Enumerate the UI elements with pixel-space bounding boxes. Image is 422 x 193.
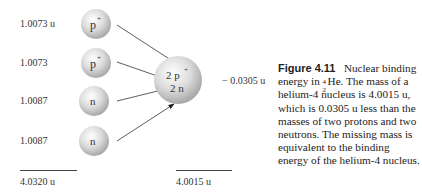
isotope-symbol: He. (328, 75, 344, 87)
sum-rule-right (176, 170, 232, 171)
helium-nucleus-sphere: 2 p + 2 n (154, 56, 202, 104)
figure-caption: Figure 4.11 Nuclear binding energy in 42… (278, 62, 420, 168)
neutron-sphere-2: n (79, 126, 109, 156)
proton-sphere-1: p + (81, 9, 111, 39)
svg-text:n: n (90, 135, 96, 147)
sum-rule-left (20, 170, 77, 171)
mass-defect-label: − 0.0305 u (222, 75, 265, 86)
svg-text:+: + (97, 15, 101, 23)
caption-body: The mass of a helium-4 nucleus is 4.0015… (278, 75, 420, 166)
svg-text:p: p (90, 18, 96, 32)
figure-label: Figure 4.11 (278, 62, 335, 74)
mass-proton-1: 1.0073 u (20, 18, 55, 29)
svg-text:+: + (97, 54, 101, 62)
svg-text:+: + (184, 66, 188, 74)
mass-neutron-1: 1.0087 (20, 95, 48, 106)
svg-text:p: p (90, 57, 96, 71)
proton-sphere-2: p + (81, 48, 111, 78)
total-mass-left: 4.0320 u (20, 176, 55, 187)
mass-proton-2: 1.0073 (20, 57, 48, 68)
neutron-sphere-1: n (79, 86, 109, 116)
nucleus-mass-label: 4.0015 u (176, 176, 211, 187)
svg-text:n: n (90, 95, 96, 107)
svg-text:2 p: 2 p (166, 69, 180, 81)
mass-neutron-2: 1.0087 (20, 135, 48, 146)
svg-text:2 n: 2 n (170, 82, 184, 94)
